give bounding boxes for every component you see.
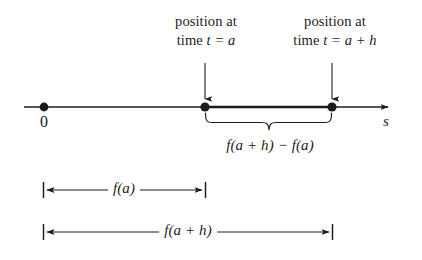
callout-a-line2-math: t = a <box>207 32 236 48</box>
callout-a-line2: time t = a <box>175 31 237 50</box>
measure-fa-label: f(a) <box>108 179 140 198</box>
callout-ah-line2: time t = a + h <box>293 31 376 50</box>
callout-position-at-time-a: position at time t = a <box>175 12 237 50</box>
point-a <box>200 102 209 111</box>
callout-position-at-time-a-plus-h: position at time t = a + h <box>293 12 376 50</box>
origin-label: 0 <box>40 112 48 131</box>
difference-brace <box>206 113 332 130</box>
callout-a-line2-prefix: time <box>177 32 207 48</box>
measure-fah-label: f(a + h) <box>159 221 217 240</box>
callout-ah-line1: position at <box>293 12 376 31</box>
point-a-plus-h <box>327 102 336 111</box>
origin-point <box>40 103 49 112</box>
callout-ah-line2-prefix: time <box>293 32 323 48</box>
difference-brace-label: f(a + h) − f(a) <box>226 136 314 155</box>
axis-label-s: s <box>383 112 389 131</box>
number-line-diagram: position at time t = a position at time … <box>0 0 422 260</box>
callout-ah-line2-math: t = a + h <box>323 32 377 48</box>
callout-a-line1: position at <box>175 12 237 31</box>
